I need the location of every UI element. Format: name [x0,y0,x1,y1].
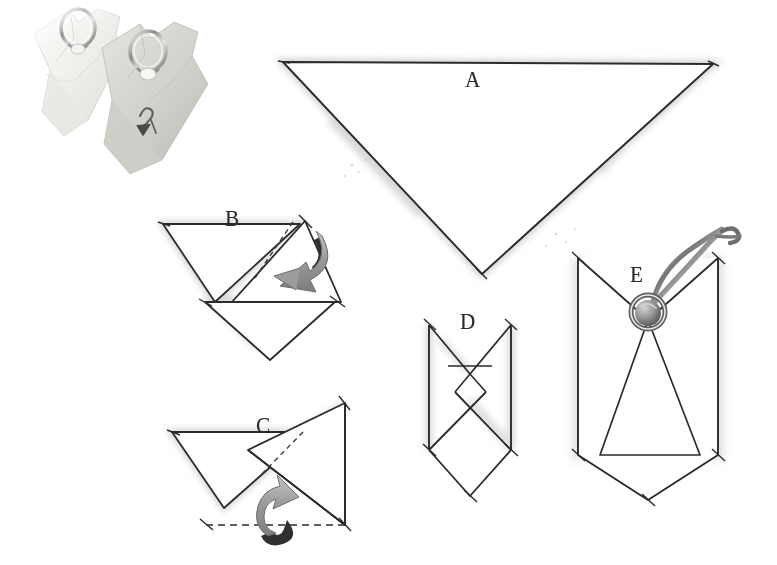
step-b-diagram [158,215,345,360]
step-label-e: E [630,261,644,288]
step-e-diagram [572,228,740,506]
illustration-page: A B C D E [0,0,777,565]
step-label-a-text: A [465,66,481,92]
step-label-d: D [460,308,476,335]
step-a-diagram [278,61,719,279]
step-label-c: C [256,412,271,439]
step-label-b: B [225,205,240,232]
diagram-layer [0,0,777,565]
step-label-b-text: B [225,205,240,231]
step-label-d-text: D [460,308,476,334]
step-label-e-text: E [630,261,644,287]
step-d-shading [429,325,511,450]
step-d-diagram [423,319,518,502]
step-label-c-text: C [256,412,271,438]
step-label-a: A [465,66,481,93]
